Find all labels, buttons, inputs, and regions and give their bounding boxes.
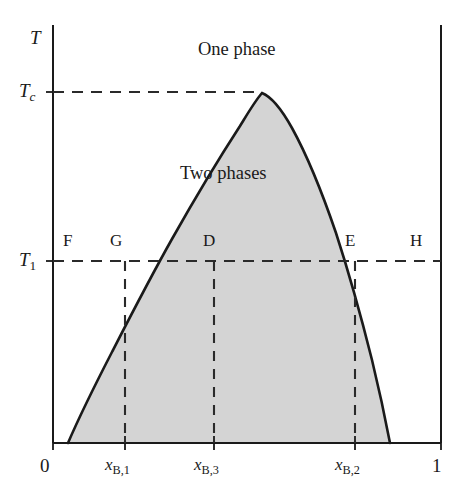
x-tick-sub-xB2: B,2 [343, 463, 360, 477]
point-label-G: G [110, 232, 122, 249]
x-tick-label-xB2: xB,2 [335, 456, 360, 473]
y-tick-label-Tc: Tc [19, 81, 35, 100]
region-label-two-phases: Two phases [180, 164, 267, 183]
point-label-F: F [63, 232, 72, 249]
y-tick-base-T1: T [19, 249, 30, 270]
x-axis-label-min: 0 [40, 456, 50, 475]
y-tick-label-T1: T1 [19, 250, 36, 269]
point-label-H: H [410, 232, 422, 249]
y-tick-sub-Tc: c [30, 89, 36, 104]
x-tick-sub-xB1: B,1 [113, 463, 130, 477]
x-axis-label-max: 1 [432, 456, 442, 475]
phase-diagram-figure: T Tc T1 One phase Two phases F G D E H 0… [0, 0, 468, 492]
region-label-one-phase: One phase [198, 40, 276, 59]
point-label-E: E [345, 232, 355, 249]
x-tick-base-xB2: x [335, 455, 343, 474]
x-tick-base-xB1: x [105, 455, 113, 474]
x-tick-base-xB3: x [194, 455, 202, 474]
y-axis-label: T [30, 28, 41, 47]
x-tick-label-xB3: xB,3 [194, 456, 219, 473]
y-tick-sub-T1: 1 [30, 258, 37, 273]
x-tick-sub-xB3: B,3 [202, 463, 219, 477]
y-tick-base-Tc: T [19, 80, 30, 101]
x-tick-label-xB1: xB,1 [105, 456, 130, 473]
point-label-D: D [203, 232, 215, 249]
